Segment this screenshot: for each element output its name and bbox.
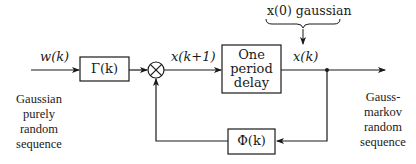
- delay-label-line-3: delay: [222, 76, 281, 90]
- output-caption: Gauss- markov random sequence: [352, 90, 414, 150]
- input-caption: Gaussian purely random sequence: [8, 92, 70, 152]
- branch-point-dot: [325, 68, 329, 72]
- feedback-branch-wire: [277, 70, 327, 141]
- delay-output-label: x(k): [293, 49, 318, 64]
- input-caption-line-3: random: [8, 122, 70, 137]
- output-caption-line-2: markov: [352, 105, 414, 120]
- output-caption-line-4: sequence: [352, 135, 414, 150]
- sum-output-label: x(k+1): [171, 49, 216, 64]
- phi-block-label: Φ(k): [237, 133, 266, 148]
- input-signal-label: w(k): [40, 49, 69, 64]
- output-caption-line-1: Gauss-: [352, 90, 414, 105]
- initial-condition-label: x(0) gaussian: [267, 3, 352, 18]
- input-caption-line-1: Gaussian: [8, 92, 70, 107]
- output-caption-line-3: random: [352, 120, 414, 135]
- phi-block: Φ(k): [228, 134, 275, 148]
- input-caption-line-4: sequence: [8, 137, 70, 152]
- feedback-return-wire: [156, 79, 228, 141]
- delay-label-line-1: One: [222, 48, 281, 62]
- input-caption-line-2: purely: [8, 107, 70, 122]
- gamma-block-label: Γ(k): [91, 61, 118, 76]
- initial-condition-brace: [266, 19, 340, 28]
- delay-label-line-2: period: [222, 62, 281, 76]
- delay-block: One period delay: [222, 48, 281, 90]
- gamma-block: Γ(k): [80, 62, 129, 76]
